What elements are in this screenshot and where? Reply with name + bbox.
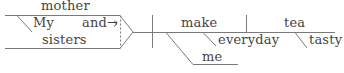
- word-my: My: [33, 16, 54, 30]
- adverb-diagonal: [203, 33, 216, 47]
- word-tasty: tasty: [309, 33, 342, 47]
- word-sisters: sisters: [42, 33, 87, 47]
- word-tea: tea: [284, 16, 305, 30]
- word-mother: mother: [41, 0, 90, 13]
- word-everyday: everyday: [218, 33, 279, 47]
- modifier-my-diagonal: [17, 16, 32, 33]
- compound-fork: [120, 16, 133, 49]
- word-and: and→: [82, 16, 118, 30]
- sentence-diagram: mother My and→ sisters make everyday me …: [0, 0, 344, 73]
- adjective-diagonal: [295, 33, 307, 49]
- word-me: me: [202, 50, 222, 64]
- word-make: make: [181, 16, 217, 30]
